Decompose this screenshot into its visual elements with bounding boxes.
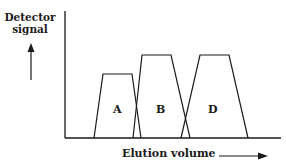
peak-b-label: B <box>156 103 165 116</box>
peak-a-label: A <box>113 103 122 116</box>
peak-d-label: D <box>208 103 218 116</box>
peak-b-trapezoid <box>133 55 190 138</box>
x-axis-label: Elution volume <box>122 147 216 160</box>
y-axis-label: Detector signal <box>4 11 56 35</box>
x-right-arrow-icon <box>219 153 268 160</box>
y-axis-label-line1: Detector <box>4 11 56 23</box>
y-axis-label-line2: signal <box>4 23 56 35</box>
y-up-arrow-icon <box>28 43 35 80</box>
peak-d-trapezoid <box>181 55 248 138</box>
